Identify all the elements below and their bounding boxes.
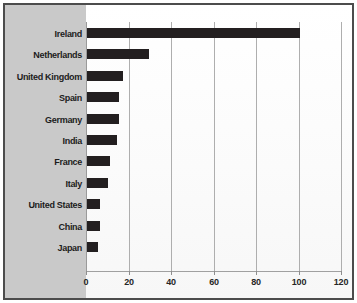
- bar-united-states: [87, 199, 100, 209]
- category-label-spain: Spain: [59, 93, 82, 103]
- x-tick-120: [341, 271, 342, 275]
- x-tick-40: [171, 271, 172, 275]
- x-tick-0: [86, 271, 87, 275]
- category-label-india: India: [62, 136, 82, 146]
- category-label-netherlands: Netherlands: [33, 50, 82, 60]
- bar-netherlands: [87, 49, 149, 59]
- category-label-france: France: [54, 157, 82, 167]
- x-tick-label-80: 80: [241, 277, 271, 287]
- category-label-ireland: Ireland: [55, 29, 82, 39]
- gridline-60: [214, 22, 215, 271]
- category-label-united-states: United States: [28, 200, 82, 210]
- bar-china: [87, 221, 100, 231]
- bar-ireland: [87, 28, 300, 38]
- x-tick-20: [129, 271, 130, 275]
- x-tick-80: [256, 271, 257, 275]
- gridline-120: [341, 22, 342, 271]
- bar-germany: [87, 114, 119, 124]
- gridline-20: [129, 22, 130, 271]
- category-label-italy: Italy: [65, 179, 82, 189]
- bar-italy: [87, 178, 108, 188]
- category-label-germany: Germany: [45, 115, 82, 125]
- gridline-0: [86, 22, 87, 271]
- category-label-japan: Japan: [57, 243, 82, 253]
- x-tick-label-120: 120: [326, 277, 356, 287]
- x-tick-label-0: 0: [71, 277, 101, 287]
- category-label-china: China: [58, 222, 82, 232]
- gridline-40: [171, 22, 172, 271]
- gridline-100: [299, 22, 300, 271]
- category-label-panel: [5, 5, 86, 298]
- category-label-united-kingdom: United Kingdom: [17, 72, 82, 82]
- x-tick-label-20: 20: [114, 277, 144, 287]
- x-tick-label-100: 100: [284, 277, 314, 287]
- bar-japan: [87, 242, 98, 252]
- x-tick-100: [299, 271, 300, 275]
- bar-india: [87, 135, 117, 145]
- bar-france: [87, 156, 110, 166]
- x-tick-label-40: 40: [156, 277, 186, 287]
- gridline-80: [256, 22, 257, 271]
- bar-united-kingdom: [87, 71, 123, 81]
- bar-spain: [87, 92, 119, 102]
- bar-chart-figure: 020406080100120 IrelandNetherlandsUnited…: [0, 0, 357, 303]
- x-tick-60: [214, 271, 215, 275]
- x-tick-label-60: 60: [199, 277, 229, 287]
